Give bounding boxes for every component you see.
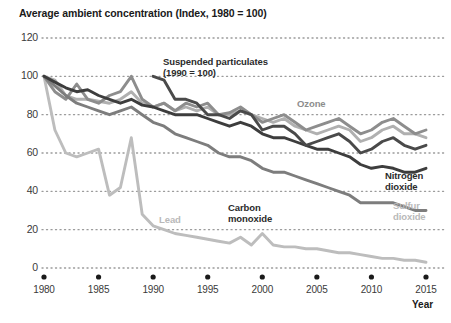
series-label-sulfur-dioxide-line1: Sulfur — [393, 200, 420, 211]
y-axis-tick-20: 20 — [12, 223, 38, 235]
series-label-carbon-monoxide: Carbon monoxide — [228, 202, 272, 224]
x-axis-tick-dot — [41, 274, 46, 279]
series-label-sulfur-dioxide: Sulfur dioxide — [393, 200, 426, 222]
series-label-carbon-monoxide-line1: Carbon — [228, 202, 261, 213]
x-axis-tick-dot — [96, 274, 101, 279]
y-axis-tick-80: 80 — [12, 108, 38, 120]
x-axis-title: Year — [412, 299, 433, 310]
x-axis-tick-1980: 1980 — [24, 284, 64, 295]
chart-container: Average ambient concentration (Index, 19… — [0, 0, 451, 323]
x-axis-tick-1990: 1990 — [133, 284, 173, 295]
series-label-nitrogen-dioxide-line2: dioxide — [385, 181, 418, 192]
x-axis-tick-dot — [205, 274, 210, 279]
y-axis-tick-100: 100 — [12, 69, 38, 81]
series-label-nitrogen-dioxide: Nitrogen dioxide — [385, 170, 423, 192]
x-axis-tick-dot — [369, 274, 374, 279]
series-label-suspended-particulates: Suspended particulates (1990 = 100) — [163, 56, 268, 78]
series-line-lead — [44, 76, 426, 262]
series-label-lead: Lead — [159, 214, 181, 225]
y-axis-tick-40: 40 — [12, 184, 38, 196]
x-axis-tick-2000: 2000 — [242, 284, 282, 295]
x-axis-tick-dots — [41, 274, 428, 279]
x-axis-tick-2010: 2010 — [351, 284, 391, 295]
y-axis-tick-0: 0 — [12, 261, 38, 273]
series-label-nitrogen-dioxide-line1: Nitrogen — [385, 170, 423, 181]
chart-plot-area — [0, 0, 451, 323]
y-axis-tick-60: 60 — [12, 146, 38, 158]
series-lines — [44, 76, 426, 262]
series-label-suspended-particulates-line2: (1990 = 100) — [163, 67, 216, 78]
x-axis-tick-dot — [423, 274, 428, 279]
series-label-suspended-particulates-line1: Suspended particulates — [163, 56, 268, 67]
x-axis-tick-dot — [151, 274, 156, 279]
x-axis-tick-2005: 2005 — [297, 284, 337, 295]
x-axis-tick-dot — [260, 274, 265, 279]
y-axis-tick-120: 120 — [12, 31, 38, 43]
series-label-ozone: Ozone — [297, 98, 326, 109]
series-label-carbon-monoxide-line2: monoxide — [228, 213, 272, 224]
x-axis-tick-dot — [314, 274, 319, 279]
x-axis-tick-1995: 1995 — [188, 284, 228, 295]
x-axis-tick-1985: 1985 — [79, 284, 119, 295]
x-axis-tick-2015: 2015 — [406, 284, 446, 295]
series-label-sulfur-dioxide-line2: dioxide — [393, 211, 426, 222]
